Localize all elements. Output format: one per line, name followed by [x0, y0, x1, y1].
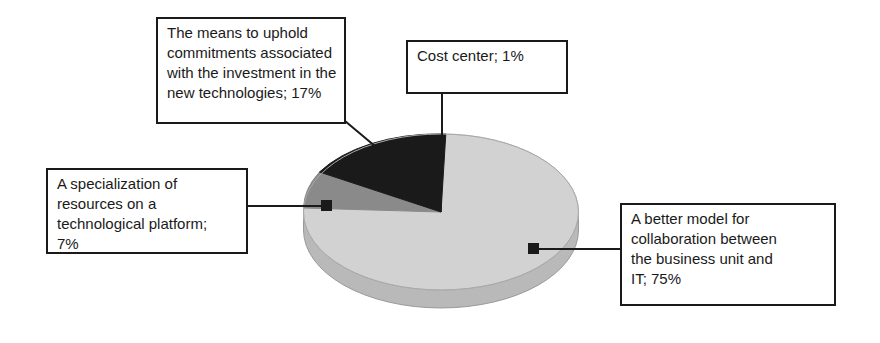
callout-label-better-model: A better model for collaboration between… [620, 203, 836, 306]
callout-label-means-to-uphold: The means to uphold commitments associat… [156, 17, 346, 124]
callout-label-specialization: A specialization of resources on a techn… [46, 168, 248, 254]
leader-marker-better-model [528, 243, 539, 254]
callout-label-cost-center: Cost center; 1% [406, 40, 568, 94]
pie-chart-figure: The means to uphold commitments associat… [0, 0, 880, 343]
leader-marker-specialization [321, 200, 332, 211]
